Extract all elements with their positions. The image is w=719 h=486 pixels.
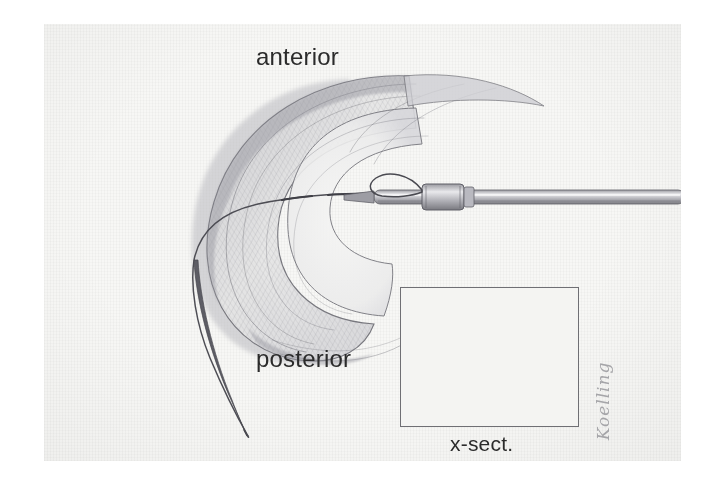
label-cross-section: x-sect. — [450, 432, 513, 456]
illustration-page: anterior posterior x-sect. Koelling — [0, 0, 719, 486]
label-posterior: posterior — [256, 345, 351, 373]
artist-signature: Koelling — [554, 384, 652, 418]
anterior-horn — [404, 75, 544, 106]
label-anterior: anterior — [256, 43, 339, 71]
xsect-inset-frame — [400, 287, 579, 427]
